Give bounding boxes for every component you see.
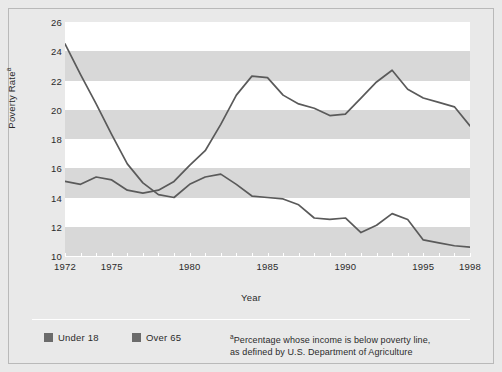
footnote-line-2: as defined by U.S. Department of Agricul… (230, 347, 413, 357)
x-axis-tick-label: 1998 (459, 261, 481, 272)
x-axis-tick (423, 253, 424, 257)
x-axis-tick (299, 253, 300, 257)
series-line-over-65 (65, 44, 470, 247)
x-axis-tick-label: 1995 (412, 261, 434, 272)
x-axis-tick (283, 253, 284, 257)
legend-label: Over 65 (146, 332, 181, 343)
x-axis-title: Year (0, 292, 502, 303)
x-axis-tick (454, 253, 455, 257)
y-axis-tick-label: 10 (51, 251, 62, 262)
x-axis-tick-label: 1975 (101, 261, 123, 272)
y-axis-tick-label: 20 (51, 104, 62, 115)
footnote-line-1: Percentage whose income is below poverty… (234, 335, 431, 345)
x-axis-tick (112, 253, 113, 257)
y-axis-tick-labels: 262422201816141210 (30, 22, 62, 256)
x-axis-tick (96, 253, 97, 257)
x-axis-tick (392, 253, 393, 257)
y-axis-tick-label: 26 (51, 17, 62, 28)
x-axis-tick (330, 253, 331, 257)
x-axis-tick-label: 1980 (179, 261, 201, 272)
y-axis-title: Poverty Ratea (5, 13, 17, 183)
x-axis-tick (470, 253, 471, 257)
chart-legend: aPercentage whose income is below povert… (32, 331, 472, 359)
footnote-text: aPercentage whose income is below povert… (230, 331, 430, 358)
x-axis-tick (65, 253, 66, 257)
x-axis-tick (408, 253, 409, 257)
legend-swatch (44, 333, 53, 342)
chart-figure: 262422201816141210 Poverty Ratea 1972197… (0, 0, 502, 372)
x-axis-tick (439, 253, 440, 257)
x-axis-tick-label: 1985 (257, 261, 279, 272)
y-axis-tick-label: 22 (51, 75, 62, 86)
x-axis-tick (236, 253, 237, 257)
x-axis-tick (205, 253, 206, 257)
legend-divider (32, 319, 470, 320)
x-axis-tick (221, 253, 222, 257)
y-axis-tick-label: 14 (51, 192, 62, 203)
y-axis-tick-label: 12 (51, 221, 62, 232)
x-axis-ticks (65, 253, 470, 259)
x-axis-tick (127, 253, 128, 257)
series-line-under-18 (65, 70, 470, 193)
x-axis-tick (252, 253, 253, 257)
y-axis-footnote-marker: a (5, 68, 12, 72)
x-axis-tick (345, 253, 346, 257)
x-axis-tick (158, 253, 159, 257)
x-axis-tick (361, 253, 362, 257)
x-axis-tick (268, 253, 269, 257)
y-axis-tick-label: 24 (51, 46, 62, 57)
legend-swatch (132, 333, 141, 342)
x-axis-tick (190, 253, 191, 257)
y-axis-tick-label: 16 (51, 163, 62, 174)
x-axis-tick-label: 1990 (334, 261, 356, 272)
legend-item-over-65[interactable]: Over 65 (132, 332, 181, 343)
x-axis-tick-label: 1972 (54, 261, 76, 272)
legend-label: Under 18 (58, 332, 99, 343)
x-axis-tick (377, 253, 378, 257)
series-lines (65, 22, 470, 256)
y-axis-tick-label: 18 (51, 134, 62, 145)
x-axis-tick (143, 253, 144, 257)
x-axis-tick-labels: 1972197519801985199019951998 (65, 261, 470, 275)
x-axis-tick (81, 253, 82, 257)
x-axis-tick (314, 253, 315, 257)
legend-item-under-18[interactable]: Under 18 (44, 332, 99, 343)
plot-area (65, 22, 470, 256)
x-axis-tick (174, 253, 175, 257)
